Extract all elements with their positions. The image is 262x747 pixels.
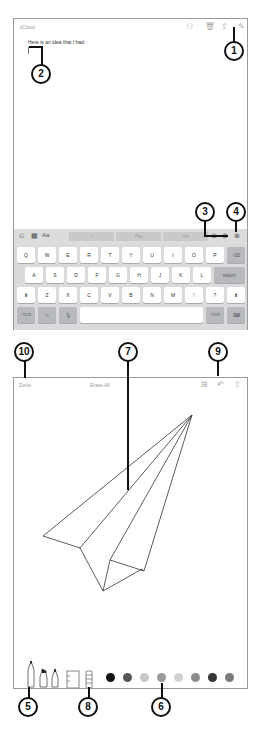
key-h[interactable]: H — [130, 267, 148, 283]
color-swatch-6[interactable] — [191, 673, 200, 682]
key-g[interactable]: G — [109, 267, 127, 283]
callout-2: 2 — [31, 64, 51, 84]
emoji-key[interactable]: ☺ — [38, 307, 56, 323]
pen-tool[interactable] — [26, 660, 36, 688]
key-k[interactable]: K — [172, 267, 190, 283]
format-button[interactable]: Aa — [42, 232, 49, 238]
return-key[interactable]: return — [214, 267, 245, 283]
callout-4: 4 — [226, 202, 246, 222]
key-c[interactable]: C — [80, 287, 98, 303]
key-q[interactable]: Q — [17, 247, 35, 263]
backspace-key[interactable]: ⌫ — [227, 247, 245, 263]
key-b[interactable]: B — [122, 287, 140, 303]
callout-3-leader-v — [204, 220, 206, 236]
callout-7: 7 — [118, 342, 138, 362]
callout-6: 6 — [151, 697, 171, 717]
callout-9-leader — [217, 360, 219, 376]
undo-icon[interactable]: ⎌ — [19, 232, 25, 240]
key-l[interactable]: L — [193, 267, 211, 283]
key-x[interactable]: X — [59, 287, 77, 303]
suggestion-2[interactable]: The — [116, 232, 161, 241]
key-m[interactable]: M — [164, 287, 182, 303]
callout-3-leader-h — [204, 235, 228, 237]
keyboard: ⎌ ▦ Aa I The I'm ⊖ ⊕ ⊗ Q W E R T Y U I O… — [14, 229, 247, 330]
key-u[interactable]: U — [143, 247, 161, 263]
key-row-2: A S D F G H J K L return — [14, 267, 247, 285]
text-cursor — [28, 47, 29, 54]
callout-8: 8 — [78, 697, 98, 717]
key-p[interactable]: P — [206, 247, 224, 263]
callout-3: 3 — [195, 202, 215, 222]
key-row-1: Q W E R T Y U I O P ⌫ — [14, 247, 247, 265]
key-f[interactable]: F — [88, 267, 106, 283]
color-swatch-3[interactable] — [140, 673, 149, 682]
key-z[interactable]: Z — [38, 287, 56, 303]
table-icon[interactable]: ▦ — [31, 232, 38, 240]
paper-airplane-drawing[interactable] — [14, 378, 247, 688]
sketch-icon[interactable]: ⊗ — [234, 232, 240, 240]
numbers-right-key[interactable]: .?123 — [206, 307, 224, 323]
notes-window: ‹iCloud ⚇ 🗑 ⇪ ✎ Here is an idea that I h… — [13, 18, 248, 330]
color-swatch-5[interactable] — [174, 673, 183, 682]
key-e[interactable]: E — [59, 247, 77, 263]
back-button[interactable]: ‹iCloud — [19, 24, 35, 30]
ruler-tool[interactable] — [85, 670, 93, 688]
key-i[interactable]: I — [164, 247, 182, 263]
pencil-tool[interactable] — [51, 668, 59, 688]
color-swatch-2[interactable] — [123, 673, 132, 682]
color-swatch-4[interactable] — [157, 673, 166, 682]
suggestion-1[interactable]: I — [69, 232, 114, 241]
key-w[interactable]: W — [38, 247, 56, 263]
key-s[interactable]: S — [46, 267, 64, 283]
color-swatch-1[interactable] — [106, 673, 115, 682]
key-row-4: .?123 ☺ 🎙 .?123 ⌨ — [14, 307, 247, 325]
callout-7-leader — [127, 360, 129, 490]
dictation-key[interactable]: 🎙 — [59, 307, 77, 323]
color-swatch-7[interactable] — [208, 673, 217, 682]
key-n[interactable]: N — [143, 287, 161, 303]
space-key[interactable] — [80, 307, 203, 323]
key-row-3: ⬆ Z X C V B N M ! ? ⬆ — [14, 287, 247, 305]
key-question[interactable]: ? — [206, 287, 224, 303]
suggestion-3[interactable]: I'm — [163, 232, 208, 241]
color-swatch-8[interactable] — [225, 673, 234, 682]
key-a[interactable]: A — [25, 267, 43, 283]
key-r[interactable]: R — [80, 247, 98, 263]
compose-icon[interactable]: ✎ — [238, 23, 245, 31]
marker-tool[interactable] — [39, 668, 48, 688]
key-exclamation[interactable]: ! — [185, 287, 203, 303]
callout-9: 9 — [208, 342, 228, 362]
key-j[interactable]: J — [151, 267, 169, 283]
key-o[interactable]: O — [185, 247, 203, 263]
sketch-window: Done Erase All ⊞ ↶ ⇪ — [13, 377, 248, 689]
eraser-tool[interactable] — [66, 670, 80, 688]
callout-10-leader — [24, 360, 26, 378]
key-d[interactable]: D — [67, 267, 85, 283]
hide-keyboard-key[interactable]: ⌨ — [227, 307, 245, 323]
share-icon[interactable]: ⇪ — [221, 23, 228, 31]
callout-1: 1 — [224, 41, 244, 61]
trash-icon[interactable]: 🗑 — [205, 23, 215, 31]
numbers-left-key[interactable]: .?123 — [17, 307, 35, 323]
key-y[interactable]: Y — [122, 247, 140, 263]
callout-5: 5 — [18, 697, 38, 717]
callout-10: 10 — [14, 342, 34, 362]
callout-2-leader-v — [41, 46, 43, 66]
key-t[interactable]: T — [101, 247, 119, 263]
shift-left-key[interactable]: ⬆ — [17, 287, 35, 303]
key-v[interactable]: V — [101, 287, 119, 303]
shift-right-key[interactable]: ⬆ — [227, 287, 245, 303]
note-text[interactable]: Here is an idea that I had: — [28, 39, 85, 45]
people-add-icon[interactable]: ⚇ — [186, 23, 193, 31]
